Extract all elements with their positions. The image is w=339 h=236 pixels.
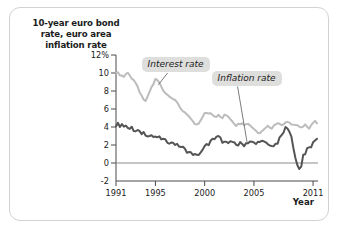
y-tick-label: 6	[75, 104, 109, 114]
annotation-leader-line	[238, 87, 247, 143]
y-tick-label: 8	[75, 86, 109, 96]
annotation-label-inflation-rate: Inflation rate	[212, 71, 282, 86]
y-tick-label: 10	[75, 68, 109, 78]
y-tick-label: 12%	[75, 50, 109, 60]
chart-frame: 10-year euro bond rate, euro area inflat…	[9, 7, 329, 221]
series-line-inflation-rate	[116, 123, 317, 169]
y-tick-label: 4	[75, 122, 109, 132]
y-tick-label: -2	[75, 176, 109, 186]
annotation-leader-line	[158, 73, 167, 85]
y-tick-label: 2	[75, 140, 109, 150]
x-tick-label: 1995	[135, 188, 175, 198]
x-tick-label: 2000	[185, 188, 225, 198]
plot-area: 12%1086420-219911995200020052011Interest…	[10, 8, 330, 222]
x-tick-label: 1991	[96, 188, 136, 198]
x-axis-title: Year	[293, 197, 314, 207]
annotation-label-interest-rate: Interest rate	[142, 57, 210, 72]
x-tick-label: 2005	[234, 188, 274, 198]
y-tick-label: 0	[75, 158, 109, 168]
